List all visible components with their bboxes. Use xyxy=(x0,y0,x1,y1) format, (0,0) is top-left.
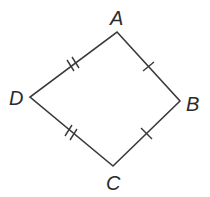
vertex-label-a: A xyxy=(109,7,123,29)
kite-diagram: A B C D xyxy=(0,0,210,197)
vertex-label-b: B xyxy=(186,93,199,115)
vertex-label-d: D xyxy=(9,87,23,109)
tick-mark-ad-2 xyxy=(72,57,79,68)
vertex-label-c: C xyxy=(106,172,121,194)
kite-outline xyxy=(30,32,180,166)
